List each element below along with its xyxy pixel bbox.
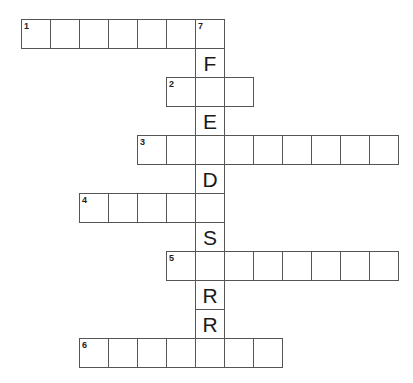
cell-letter: D [196,168,224,192]
crossword-cell[interactable]: 1 [21,19,51,49]
crossword-cell[interactable] [282,135,312,165]
crossword-cell[interactable] [108,338,138,368]
clue-number: 6 [82,340,87,350]
crossword-cell[interactable] [166,19,196,49]
crossword-cell[interactable] [166,338,196,368]
crossword-cell[interactable] [137,338,167,368]
crossword-cell[interactable] [311,135,341,165]
clue-number: 4 [82,195,87,205]
clue-number: 7 [198,21,203,31]
clue-number: 2 [169,79,174,89]
clue-number: 1 [24,21,29,31]
crossword-cell[interactable] [340,135,370,165]
crossword-cell[interactable] [311,251,341,281]
crossword-cell[interactable]: 2 [166,77,196,107]
crossword-cell[interactable] [224,338,254,368]
crossword-cell[interactable]: 6 [79,338,109,368]
crossword-cell[interactable]: R [195,309,225,339]
cell-letter: R [196,313,224,337]
crossword-cell[interactable] [137,193,167,223]
crossword-cell[interactable] [195,135,225,165]
crossword-cell[interactable] [166,135,196,165]
crossword-cell[interactable] [253,135,283,165]
crossword-cell[interactable] [224,77,254,107]
crossword-cell[interactable] [282,251,312,281]
crossword-cell[interactable] [50,19,80,49]
crossword-cell[interactable] [340,251,370,281]
crossword-cell[interactable] [224,135,254,165]
cell-letter: R [196,284,224,308]
crossword-cell[interactable] [195,251,225,281]
crossword-cell[interactable] [369,251,399,281]
cell-letter: F [196,52,224,76]
crossword-cell[interactable]: S [195,222,225,252]
crossword-cell[interactable] [195,77,225,107]
crossword-cell[interactable] [79,19,109,49]
clue-number: 5 [169,253,174,263]
crossword-cell[interactable] [253,338,283,368]
crossword-cell[interactable]: 3 [137,135,167,165]
crossword-cell[interactable] [108,193,138,223]
crossword-cell[interactable] [137,19,167,49]
crossword-cell[interactable]: F [195,48,225,78]
crossword-cell[interactable]: 4 [79,193,109,223]
crossword-grid: 1723456FEDSRR [0,0,413,383]
crossword-cell[interactable] [224,251,254,281]
crossword-cell[interactable]: 7 [195,19,225,49]
crossword-cell[interactable] [253,251,283,281]
crossword-cell[interactable]: D [195,164,225,194]
crossword-cell[interactable] [195,193,225,223]
crossword-cell[interactable]: R [195,280,225,310]
clue-number: 3 [140,137,145,147]
crossword-cell[interactable] [108,19,138,49]
crossword-cell[interactable]: E [195,106,225,136]
crossword-cell[interactable] [369,135,399,165]
cell-letter: E [196,110,224,134]
crossword-cell[interactable]: 5 [166,251,196,281]
crossword-cell[interactable] [195,338,225,368]
crossword-cell[interactable] [166,193,196,223]
cell-letter: S [196,226,224,250]
